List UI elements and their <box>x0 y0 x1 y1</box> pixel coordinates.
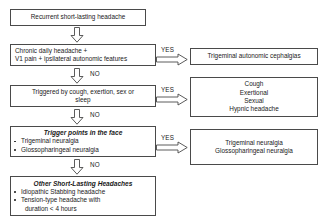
arrow-down-1 <box>70 27 84 43</box>
step3-heading: Trigger points in the face <box>11 128 155 137</box>
step3-bullet-1: Trigeminal neuralgia <box>11 137 155 146</box>
outcome2-line-4: Hypnic headache <box>191 105 317 113</box>
step4-box: Other Short-Lasting Headaches Idiopathic… <box>10 176 156 216</box>
no-label-1: NO <box>90 70 100 77</box>
step3-bullet-1-text: Trigeminal neuralgia <box>21 137 79 144</box>
arrow-right-2 <box>156 93 188 106</box>
yes-label-3: YES <box>161 134 174 141</box>
step4-bullet-2-continuation: duration < 4 hours <box>11 205 155 214</box>
step4-bullet-2: Tension-type headache with <box>11 196 155 205</box>
arrow-right-1 <box>156 53 188 66</box>
step4-bullet-2-text: Tension-type headache with <box>21 196 100 203</box>
outcome3-line-1: Trigeminal neuralgia <box>191 139 317 147</box>
no-label-3: NO <box>90 161 100 168</box>
outcome2-line-3: Sexual <box>191 97 317 105</box>
bullet-dot-icon <box>14 141 16 143</box>
no-label-2: NO <box>90 111 100 118</box>
arrow-right-3 <box>156 141 188 154</box>
arrow-down-4 <box>70 159 84 175</box>
bullet-dot-icon <box>14 191 16 193</box>
outcome1-line-1: Trigeminal autonomic cephalgias <box>191 52 317 60</box>
arrow-down-2 <box>70 68 84 84</box>
step3-box: Trigger points in the face Trigeminal ne… <box>10 126 156 157</box>
step3-bullet-2-text: Glossopharingeal neuralgia <box>21 146 99 153</box>
step1-line-2: V1 pain + ipsilateral autonomic features <box>11 55 155 63</box>
outcome2-box: Cough Exertional Sexual Hypnic headache <box>190 77 318 117</box>
step3-bullet-2: Glossopharingeal neuralgia <box>11 146 155 155</box>
start-box: Recurrent short-lasting headache <box>10 9 146 26</box>
step2-line-1: Triggered by cough, exertion, sex or <box>11 88 155 96</box>
bullet-dot-icon <box>14 149 16 151</box>
step1-line-1: Chronic daily headache + <box>11 47 155 55</box>
outcome1-box: Trigeminal autonomic cephalgias <box>190 48 318 65</box>
step2-box: Triggered by cough, exertion, sex or sle… <box>10 85 156 107</box>
yes-label-1: YES <box>161 46 174 53</box>
step4-bullet-1-text: Idiopathic Stabbing headache <box>21 188 105 195</box>
outcome3-box: Trigeminal neuralgia Glossopharingeal ne… <box>190 129 318 165</box>
yes-label-2: YES <box>161 86 174 93</box>
bullet-dot-icon <box>14 199 16 201</box>
flowchart-canvas: Recurrent short-lasting headache Chronic… <box>0 0 325 223</box>
outcome2-line-2: Exertional <box>191 89 317 97</box>
step4-bullet-1: Idiopathic Stabbing headache <box>11 188 155 197</box>
step2-line-2: sleep <box>11 96 155 104</box>
outcome3-line-2: Glossopharingeal neuralgia <box>191 147 317 155</box>
step4-heading: Other Short-Lasting Headaches <box>11 179 155 188</box>
start-box-line: Recurrent short-lasting headache <box>11 13 145 21</box>
outcome2-line-1: Cough <box>191 80 317 88</box>
arrow-down-3 <box>70 109 84 125</box>
step1-box: Chronic daily headache + V1 pain + ipsil… <box>10 44 156 66</box>
